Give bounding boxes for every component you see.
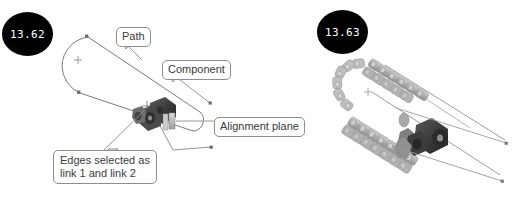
axis-endpoint-dot xyxy=(501,180,504,183)
callout-component: Component xyxy=(162,60,231,80)
callout-path: Path xyxy=(116,27,151,47)
chain-pattern-group xyxy=(332,58,505,175)
figure-number-right: 13.63 xyxy=(325,26,360,39)
path-vertex-marker xyxy=(77,91,80,94)
right-center-cross-icon xyxy=(364,88,372,96)
callout-edges-selected: Edges selected as link 1 and link 2 xyxy=(53,150,157,184)
callout-component-label: Component xyxy=(168,63,225,75)
figure-number-badge-left: 13.62 xyxy=(2,12,53,56)
component-pin xyxy=(157,106,163,114)
chain-links-turn xyxy=(332,58,365,112)
axis-endpoint-dot xyxy=(505,142,508,145)
seed-top-roller xyxy=(399,113,409,127)
chain-links-upper xyxy=(361,58,429,104)
callout-alignment-plane: Alignment plane xyxy=(214,117,305,137)
callout-edges-line-2: link 1 and link 2 xyxy=(60,167,150,180)
figure-number-left: 13.62 xyxy=(10,28,45,41)
chain-link xyxy=(333,77,342,89)
callout-edges-line-1: Edges selected as xyxy=(60,154,150,167)
leader-endpoints-left xyxy=(209,101,213,148)
callout-alignment-plane-label: Alignment plane xyxy=(220,120,299,132)
figure-canvas: 13.62 13.63 Path Component Alignment pla… xyxy=(0,0,520,209)
path-center-cross-icon xyxy=(74,56,82,64)
leader-endpoints-right xyxy=(501,142,508,183)
seed-component-bore xyxy=(437,134,443,141)
leader-edges-1 xyxy=(104,107,148,150)
component-bore xyxy=(148,115,152,120)
component-model-right xyxy=(394,113,448,158)
alignment-plane-tab-2 xyxy=(163,114,168,130)
path-vertex-marker xyxy=(85,35,88,38)
leader-endpoint-dot xyxy=(210,146,213,149)
alignment-plane-tab xyxy=(169,113,175,129)
seed-bracket-hub xyxy=(413,139,422,149)
leader-edges-3 xyxy=(173,147,211,150)
component-model-left xyxy=(132,97,176,131)
callout-path-label: Path xyxy=(122,30,145,42)
leader-endpoint-dot xyxy=(209,101,212,104)
figure-number-badge-right: 13.63 xyxy=(317,10,368,54)
